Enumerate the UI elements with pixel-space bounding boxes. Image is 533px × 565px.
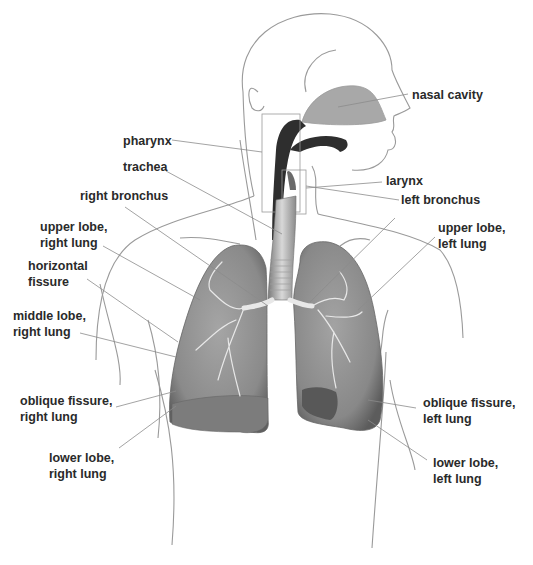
nasal-cavity-shape [302,86,386,125]
label-oblique-fissure-right-lung: oblique fissure, right lung [20,393,112,425]
label-lower-lobe-right-lung: lower lobe, right lung [49,450,114,482]
label-upper-lobe-left-lung: upper lobe, left lung [438,220,505,252]
label-left-bronchus: left bronchus [401,192,480,208]
label-larynx: larynx [386,173,423,189]
label-nasal-cavity: nasal cavity [412,87,483,103]
respiratory-diagram: nasal cavity pharynx trachea larynx righ… [0,0,533,565]
label-oblique-fissure-left-lung: oblique fissure, left lung [423,395,515,427]
right-lower-lobe [172,396,268,433]
label-trachea: trachea [123,159,167,175]
label-horizontal-fissure: horizontal fissure [28,258,88,290]
label-pharynx: pharynx [123,133,172,149]
label-middle-lobe-right-lung: middle lobe, right lung [13,308,86,340]
label-lower-lobe-left-lung: lower lobe, left lung [433,455,498,487]
label-right-bronchus: right bronchus [80,188,168,204]
label-upper-lobe-right-lung: upper lobe, right lung [40,219,107,251]
